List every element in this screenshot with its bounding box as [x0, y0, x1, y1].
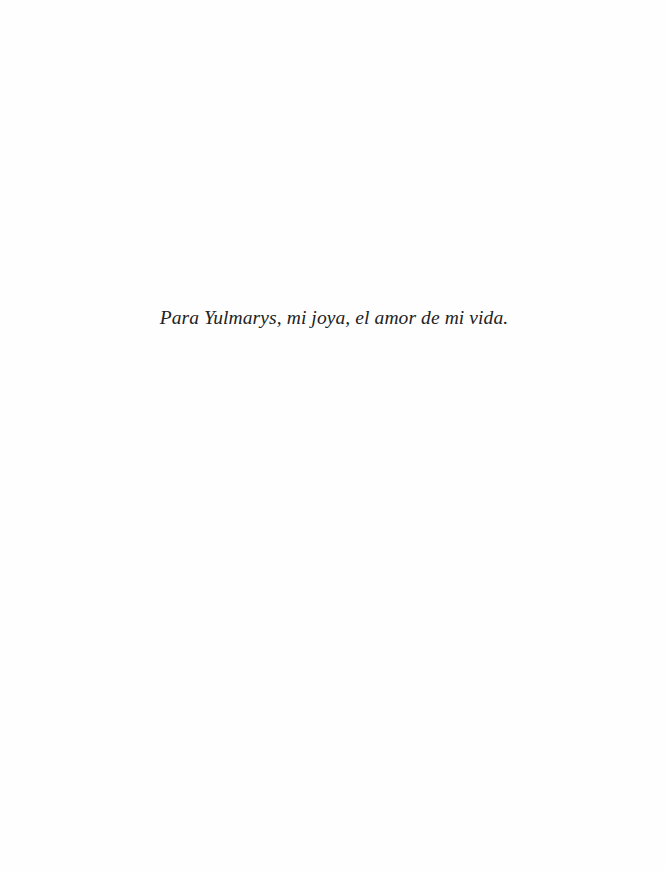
book-page: Para Yulmarys, mi joya, el amor de mi vi…	[0, 0, 665, 871]
dedication-text: Para Yulmarys, mi joya, el amor de mi vi…	[0, 306, 665, 330]
